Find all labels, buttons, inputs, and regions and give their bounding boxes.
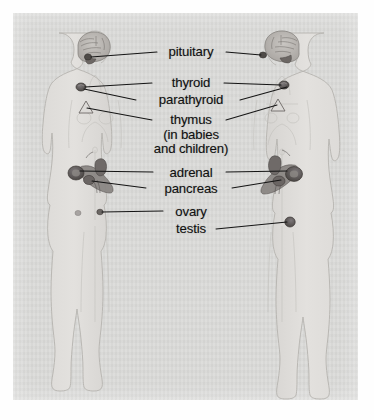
label-testis: testis [176,222,206,237]
endocrine-diagram: pituitary thyroid parathyroid thymus (in… [0,0,374,420]
label-thymus: thymus [170,113,212,128]
label-parathyroid: parathyroid [159,93,223,108]
leader-pituitary-right [226,52,261,55]
male-brain-illustration [265,31,299,63]
male-figure [254,31,340,399]
male-body-outline [266,33,340,399]
label-thyroid: thyroid [172,76,211,91]
label-thymus-note-line2: and children) [154,142,228,157]
leader-ovary-left [102,211,163,212]
label-pituitary: pituitary [169,45,214,60]
leader-thyroid-right [224,83,281,85]
label-ovary: ovary [175,205,207,220]
label-pancreas: pancreas [164,182,217,197]
label-adrenal: adrenal [170,166,213,181]
